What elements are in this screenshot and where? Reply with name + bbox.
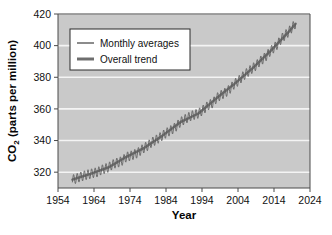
x-axis-title: Year [172, 209, 197, 221]
y-tick-label-400: 400 [33, 39, 51, 51]
y-tick-label-340: 340 [33, 134, 51, 146]
chart-legend: Monthly averagesOverall trend [70, 29, 190, 70]
y-axis-title-prefix: CO [6, 145, 18, 162]
x-tick-label-1994: 1994 [190, 194, 214, 206]
y-tick-label-360: 360 [33, 103, 51, 115]
figure-container: 320340360380400420 195419641974198419942… [0, 0, 332, 235]
x-tick-label-1984: 1984 [154, 194, 178, 206]
x-tick-label-1954: 1954 [46, 194, 70, 206]
x-tick-label-1964: 1964 [82, 194, 106, 206]
y-axis-ticks [54, 14, 58, 172]
y-tick-label-380: 380 [33, 71, 51, 83]
y-tick-label-420: 420 [33, 8, 51, 20]
legend-label-2: Overall trend [100, 54, 157, 65]
x-axis-tick-labels: 19541964197419841994200420142024 [46, 194, 322, 206]
co2-line-chart: 320340360380400420 195419641974198419942… [0, 0, 332, 235]
x-tick-label-1974: 1974 [118, 194, 142, 206]
x-tick-label-2004: 2004 [226, 194, 250, 206]
x-tick-label-2014: 2014 [262, 194, 286, 206]
y-tick-label-320: 320 [33, 166, 51, 178]
y-axis-title: CO2 (parts per million) [6, 40, 21, 162]
legend-label-1: Monthly averages [100, 38, 179, 49]
y-axis-tick-labels: 320340360380400420 [33, 8, 51, 178]
x-axis-ticks [58, 188, 310, 192]
y-axis-title-suffix: (parts per million) [6, 40, 18, 140]
x-tick-label-2024: 2024 [298, 194, 322, 206]
